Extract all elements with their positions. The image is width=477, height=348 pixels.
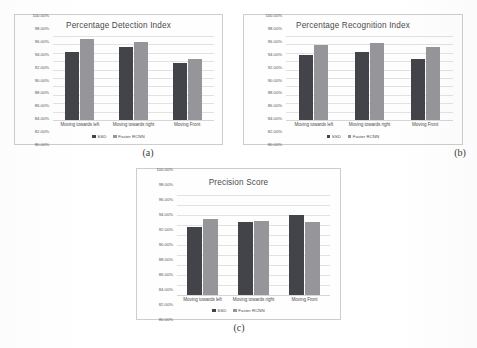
y-tick-label: 96.00% [35, 38, 49, 43]
figure-caption-c: (c) [219, 322, 259, 333]
y-tick-label: 100.00% [156, 167, 173, 172]
chart-panel-b: Percentage Recognition Index 100.00%98.0… [243, 14, 463, 145]
y-tick-label: 92.00% [268, 64, 282, 69]
y-axis-labels-a: 100.00%98.00%96.00%94.00%92.00%90.00%88.… [17, 15, 51, 144]
x-tick-label: Moving towards right [231, 297, 277, 302]
legend-label-faster-rcnn: Faster RCNN [238, 308, 264, 313]
bar-ssd [238, 222, 253, 296]
legend-swatch-ssd-icon [212, 309, 216, 313]
bar-ssd [289, 215, 304, 295]
x-axis-labels-a: Moving towards leftMoving towards rightM… [53, 122, 214, 127]
y-tick-label: 84.00% [268, 116, 282, 121]
y-tick-label: 90.00% [268, 77, 282, 82]
legend-swatch-ssd-icon [92, 135, 96, 139]
y-tick-label: 82.00% [159, 302, 173, 307]
legend-swatch-faster-rcnn-icon [113, 135, 117, 139]
bar-group [231, 195, 277, 295]
chart-panel-c: Precision Score 100.00%98.00%96.00%94.00… [136, 168, 341, 320]
bar-ssd [299, 55, 313, 120]
legend-c: SSD Faster RCNN [137, 308, 340, 313]
bar-faster-rcnn [426, 47, 440, 120]
bar-faster-rcnn [134, 42, 148, 120]
x-tick-label: Moving Front [164, 122, 210, 127]
legend-item-ssd: SSD [212, 308, 226, 313]
y-tick-label: 86.00% [159, 272, 173, 277]
y-tick-label: 90.00% [35, 77, 49, 82]
bar-faster-rcnn [305, 222, 320, 296]
x-tick-label: Moving towards right [345, 122, 393, 127]
legend-item-faster-rcnn: Faster RCNN [113, 134, 144, 139]
legend-a: SSD Faster RCNN [15, 134, 222, 139]
y-tick-label: 94.00% [159, 212, 173, 217]
legend-swatch-ssd-icon [327, 135, 331, 139]
y-tick-label: 90.00% [159, 242, 173, 247]
x-tick-label: Moving Front [401, 122, 449, 127]
legend-b: SSD Faster RCNN [244, 134, 462, 139]
bar-ssd [187, 227, 202, 296]
x-axis-labels-c: Moving towards leftMoving towards rightM… [177, 297, 330, 302]
bar-group [57, 36, 103, 120]
legend-item-ssd: SSD [92, 134, 106, 139]
gridline [286, 120, 453, 121]
y-tick-label: 98.00% [159, 182, 173, 187]
bar-faster-rcnn [314, 45, 328, 120]
x-tick-label: Moving towards left [57, 122, 103, 127]
y-tick-label: 84.00% [35, 116, 49, 121]
y-tick-label: 84.00% [159, 287, 173, 292]
bar-groups-c [177, 195, 330, 295]
bar-group [401, 36, 449, 120]
x-tick-label: Moving Front [282, 297, 328, 302]
x-tick-label: Moving towards right [110, 122, 156, 127]
y-axis-labels-c: 100.00%98.00%96.00%94.00%92.00%90.00%88.… [139, 169, 175, 319]
figure-caption-a: (a) [128, 147, 168, 158]
plot-area-a [53, 36, 214, 120]
y-tick-label: 88.00% [268, 90, 282, 95]
y-tick-label: 82.00% [268, 129, 282, 134]
y-tick-label: 98.00% [268, 25, 282, 30]
plot-area-c [177, 195, 330, 295]
x-tick-label: Moving towards left [290, 122, 338, 127]
legend-swatch-faster-rcnn-icon [233, 309, 237, 313]
y-tick-label: 96.00% [268, 38, 282, 43]
bar-ssd [411, 59, 425, 120]
figure-caption-b: (b) [440, 147, 477, 158]
bar-group [345, 36, 393, 120]
legend-item-ssd: SSD [327, 134, 341, 139]
bar-faster-rcnn [370, 43, 384, 120]
legend-swatch-faster-rcnn-icon [348, 135, 352, 139]
y-tick-label: 94.00% [268, 51, 282, 56]
y-axis-labels-b: 100.00%98.00%96.00%94.00%92.00%90.00%88.… [247, 15, 284, 144]
bar-groups-b [286, 36, 453, 120]
y-tick-label: 100.00% [32, 13, 49, 18]
y-tick-label: 80.00% [35, 142, 49, 147]
legend-label-ssd: SSD [217, 308, 226, 313]
bar-group [110, 36, 156, 120]
y-tick-label: 82.00% [35, 129, 49, 134]
legend-item-faster-rcnn: Faster RCNN [233, 308, 264, 313]
y-tick-label: 86.00% [35, 103, 49, 108]
bar-faster-rcnn [188, 59, 202, 120]
gridline [177, 295, 330, 296]
y-tick-label: 86.00% [268, 103, 282, 108]
x-axis-labels-b: Moving towards leftMoving towards rightM… [286, 122, 453, 127]
legend-label-faster-rcnn: Faster RCNN [353, 134, 379, 139]
y-tick-label: 80.00% [268, 142, 282, 147]
y-tick-label: 88.00% [35, 90, 49, 95]
legend-label-ssd: SSD [97, 134, 106, 139]
bar-group [282, 195, 328, 295]
y-tick-label: 100.00% [265, 13, 282, 18]
bar-faster-rcnn [203, 219, 218, 295]
bar-group [290, 36, 338, 120]
bar-group [180, 195, 226, 295]
legend-label-ssd: SSD [332, 134, 341, 139]
y-tick-label: 88.00% [159, 257, 173, 262]
bar-ssd [65, 52, 79, 120]
figure-page: Percentage Detection Index 100.00%98.00%… [0, 0, 477, 348]
x-tick-label: Moving towards left [180, 297, 226, 302]
legend-item-faster-rcnn: Faster RCNN [348, 134, 379, 139]
legend-label-faster-rcnn: Faster RCNN [118, 134, 144, 139]
bar-ssd [173, 63, 187, 120]
bar-faster-rcnn [254, 221, 269, 296]
bar-ssd [355, 52, 369, 120]
plot-area-b [286, 36, 453, 120]
